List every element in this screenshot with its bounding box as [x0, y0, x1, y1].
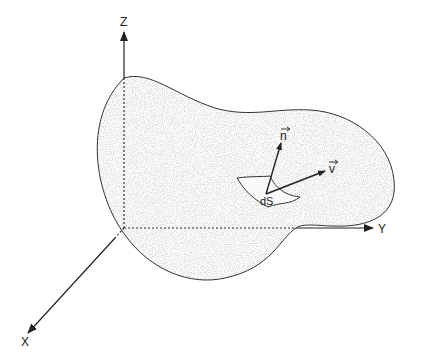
surface-element-label: dS: [260, 195, 273, 207]
y-axis-label: Y: [378, 222, 386, 236]
velocity-vector-label: v: [329, 162, 335, 176]
normal-vector-label: n: [280, 129, 287, 143]
x-axis-label: X: [21, 335, 29, 349]
x-axis: [28, 238, 115, 333]
z-axis-label: Z: [120, 15, 127, 29]
diagram-canvas: Z Y X n v dS: [0, 0, 431, 361]
